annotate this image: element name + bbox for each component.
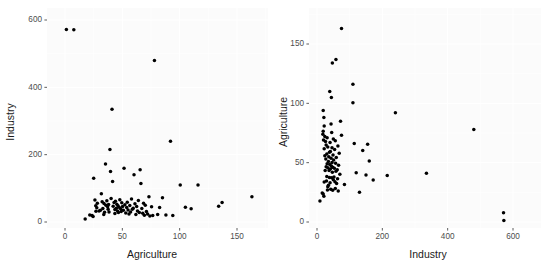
- data-point: [132, 173, 136, 177]
- left-x-axis-title: Agriculture: [127, 248, 177, 260]
- data-point: [120, 201, 124, 205]
- data-point: [137, 199, 141, 203]
- data-point: [96, 201, 100, 205]
- data-point: [135, 205, 139, 209]
- data-point: [331, 170, 335, 174]
- data-point: [327, 160, 331, 164]
- data-point: [158, 206, 162, 210]
- data-point: [336, 177, 340, 181]
- data-point: [128, 204, 132, 208]
- data-point: [171, 214, 175, 218]
- right-x-axis-title: Industry: [409, 248, 447, 260]
- data-point: [318, 199, 322, 203]
- data-point: [113, 212, 117, 216]
- data-point: [335, 156, 339, 160]
- data-point: [323, 169, 327, 173]
- l-y-tick-label: 200: [28, 150, 42, 159]
- data-point: [334, 187, 338, 191]
- data-point: [328, 181, 332, 185]
- data-point: [124, 211, 128, 215]
- r-x-tick-label: 600: [506, 232, 520, 241]
- right-x-tick-labels: 0200400600: [315, 232, 521, 241]
- data-point: [72, 28, 76, 32]
- data-point: [322, 147, 326, 151]
- data-point: [134, 213, 138, 217]
- l-x-tick-label: 50: [118, 232, 128, 241]
- data-point: [328, 141, 332, 145]
- r-y-tick-label: 150: [290, 39, 304, 48]
- data-point: [100, 192, 104, 196]
- data-point: [144, 203, 148, 207]
- data-point: [196, 183, 200, 187]
- data-point: [109, 197, 113, 201]
- data-point: [138, 168, 142, 172]
- data-point: [330, 146, 334, 150]
- data-point: [118, 198, 122, 202]
- r-x-tick-label: 0: [315, 232, 320, 241]
- data-point: [361, 149, 365, 153]
- data-point: [324, 143, 328, 147]
- data-point: [502, 211, 506, 215]
- data-point: [322, 124, 326, 128]
- data-point: [161, 196, 165, 200]
- data-point: [336, 144, 340, 148]
- data-point: [147, 195, 151, 199]
- l-x-tick-label: 150: [230, 232, 244, 241]
- data-point: [334, 162, 338, 166]
- data-point: [329, 187, 333, 191]
- data-point: [322, 116, 326, 120]
- data-point: [338, 173, 342, 177]
- data-point: [126, 200, 130, 204]
- data-point: [83, 217, 87, 221]
- data-point: [107, 210, 111, 214]
- data-point: [330, 96, 334, 100]
- left-x-tick-labels: 050100150: [63, 232, 245, 241]
- figure-root: 0200400600 050100150 Agriculture Industr…: [0, 0, 547, 271]
- data-point: [104, 162, 108, 166]
- data-point: [332, 175, 336, 179]
- left-y-tick-labels: 0200400600: [28, 15, 42, 226]
- data-point: [94, 209, 98, 213]
- data-point: [217, 204, 221, 208]
- data-point: [343, 183, 347, 187]
- data-point: [131, 206, 135, 210]
- right-plot-svg: 050100150 0200400600 Industry Agricultur…: [273, 0, 547, 271]
- data-point: [358, 191, 362, 195]
- l-x-tick-label: 100: [173, 232, 187, 241]
- data-point: [122, 208, 126, 212]
- data-point: [143, 214, 147, 218]
- data-point: [332, 137, 336, 141]
- data-point: [331, 153, 335, 157]
- data-point: [321, 109, 325, 113]
- data-point: [92, 176, 96, 180]
- data-point: [502, 219, 506, 223]
- data-point: [368, 159, 372, 163]
- left-plot-svg: 0200400600 050100150 Agriculture Industr…: [0, 0, 273, 271]
- data-point: [351, 83, 355, 87]
- data-point: [321, 132, 325, 136]
- data-point: [336, 189, 340, 193]
- data-point: [329, 122, 333, 126]
- r-y-tick-label: 0: [299, 217, 304, 226]
- r-x-tick-label: 400: [441, 232, 455, 241]
- data-point: [325, 175, 329, 179]
- data-point: [111, 204, 115, 208]
- data-point: [150, 205, 154, 209]
- data-point: [103, 210, 107, 214]
- data-point: [340, 27, 344, 31]
- data-point: [322, 138, 326, 142]
- data-point: [178, 183, 182, 187]
- data-point: [114, 199, 118, 203]
- data-point: [138, 211, 142, 215]
- data-point: [351, 101, 355, 105]
- data-point: [139, 182, 143, 186]
- data-point: [320, 191, 324, 195]
- right-panel-background: [309, 8, 541, 228]
- data-point: [169, 139, 173, 143]
- data-point: [366, 143, 370, 147]
- data-point: [122, 166, 126, 170]
- data-point: [107, 203, 111, 207]
- data-point: [151, 214, 155, 218]
- right-y-tick-labels: 050100150: [290, 39, 304, 226]
- data-point: [352, 142, 356, 146]
